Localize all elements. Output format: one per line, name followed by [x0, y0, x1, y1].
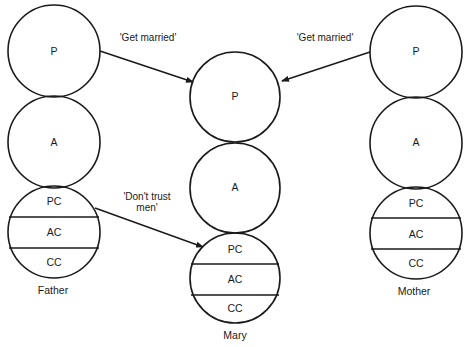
mother-parent-label: P — [412, 45, 419, 57]
mother-name: Mother — [398, 285, 431, 297]
father-name: Father — [38, 284, 69, 296]
message-dont-trust-men-line1: 'Don't trust — [123, 191, 170, 202]
father-parent-label: P — [50, 45, 57, 57]
message-father-get-married: 'Get married' — [120, 32, 177, 43]
father-ac-label: AC — [47, 226, 62, 238]
mother-adult-label: A — [412, 136, 419, 148]
mary-adult-label: A — [231, 181, 238, 193]
father-adult-label: A — [50, 136, 57, 148]
mary-ego-states: P A PC AC CC Mary — [190, 52, 280, 341]
mary-pc-label: PC — [228, 243, 243, 255]
father-pc-label: PC — [47, 195, 62, 207]
father-ego-states: P A PC AC CC Father — [8, 5, 100, 296]
mary-parent-label: P — [231, 90, 238, 102]
mother-pc-label: PC — [409, 197, 424, 209]
mother-ac-label: AC — [409, 228, 424, 240]
ego-state-diagram: P A PC AC CC Father P A PC AC CC Mary P … — [0, 0, 468, 347]
arrow-father-to-mary-parent — [100, 51, 193, 82]
mary-cc-label: CC — [227, 302, 243, 314]
mother-cc-label: CC — [408, 257, 424, 269]
message-mother-get-married: 'Get married' — [297, 32, 354, 43]
mary-name: Mary — [223, 329, 247, 341]
arrow-mother-to-mary-parent — [282, 52, 370, 81]
mother-ego-states: P A PC AC CC Mother — [370, 6, 462, 297]
mary-ac-label: AC — [228, 273, 243, 285]
father-cc-label: CC — [46, 256, 62, 268]
arrow-father-pc-to-mary-pc — [95, 208, 203, 247]
message-dont-trust-men-line2: men' — [136, 202, 157, 213]
